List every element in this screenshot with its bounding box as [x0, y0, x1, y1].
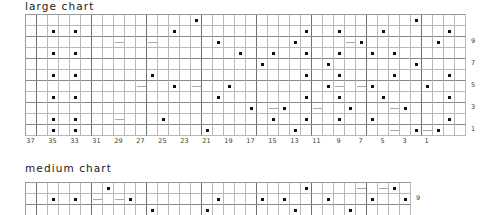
chart-cell[interactable]: [411, 15, 422, 26]
chart-cell[interactable]: [301, 205, 312, 215]
chart-cell[interactable]: [92, 70, 103, 81]
chart-cell[interactable]: [345, 194, 356, 205]
chart-cell[interactable]: [213, 48, 224, 59]
chart-cell[interactable]: [202, 81, 213, 92]
chart-cell[interactable]: [224, 205, 235, 215]
chart-cell[interactable]: [147, 70, 158, 81]
chart-cell[interactable]: [400, 103, 411, 114]
chart-cell[interactable]: [257, 114, 268, 125]
chart-cell[interactable]: [345, 15, 356, 26]
chart-cell[interactable]: [323, 48, 334, 59]
chart-cell[interactable]: [180, 114, 191, 125]
chart-cell[interactable]: [389, 205, 400, 215]
chart-cell[interactable]: [411, 103, 422, 114]
chart-cell[interactable]: [191, 26, 202, 37]
chart-cell[interactable]: [444, 26, 455, 37]
chart-cell[interactable]: [191, 92, 202, 103]
chart-cell[interactable]: [213, 125, 224, 136]
chart-cell[interactable]: [202, 59, 213, 70]
chart-cell[interactable]: [345, 37, 356, 48]
chart-cell[interactable]: [191, 15, 202, 26]
chart-cell[interactable]: [70, 194, 81, 205]
chart-cell[interactable]: [257, 92, 268, 103]
chart-cell[interactable]: [455, 92, 466, 103]
chart-cell[interactable]: [301, 70, 312, 81]
chart-cell[interactable]: [158, 48, 169, 59]
chart-cell[interactable]: [268, 125, 279, 136]
chart-cell[interactable]: [246, 92, 257, 103]
chart-cell[interactable]: [136, 194, 147, 205]
chart-cell[interactable]: [48, 70, 59, 81]
chart-cell[interactable]: [345, 103, 356, 114]
chart-cell[interactable]: [48, 92, 59, 103]
chart-cell[interactable]: [400, 125, 411, 136]
chart-cell[interactable]: [301, 48, 312, 59]
chart-cell[interactable]: [323, 37, 334, 48]
chart-cell[interactable]: [444, 59, 455, 70]
chart-cell[interactable]: [37, 183, 48, 194]
chart-cell[interactable]: [81, 15, 92, 26]
chart-cell[interactable]: [257, 103, 268, 114]
chart-cell[interactable]: [191, 114, 202, 125]
chart-cell[interactable]: [169, 48, 180, 59]
chart-cell[interactable]: [180, 205, 191, 215]
chart-cell[interactable]: [345, 205, 356, 215]
chart-cell[interactable]: [323, 183, 334, 194]
chart-cell[interactable]: [180, 125, 191, 136]
chart-cell[interactable]: [59, 103, 70, 114]
chart-cell[interactable]: [312, 81, 323, 92]
chart-cell[interactable]: [48, 205, 59, 215]
chart-cell[interactable]: [48, 125, 59, 136]
chart-cell[interactable]: [169, 205, 180, 215]
chart-cell[interactable]: [279, 194, 290, 205]
chart-cell[interactable]: [422, 15, 433, 26]
chart-cell[interactable]: [268, 70, 279, 81]
chart-cell[interactable]: [323, 103, 334, 114]
chart-cell[interactable]: [334, 194, 345, 205]
chart-cell[interactable]: [378, 59, 389, 70]
chart-cell[interactable]: [114, 81, 125, 92]
chart-cell[interactable]: [26, 125, 37, 136]
chart-cell[interactable]: [323, 70, 334, 81]
chart-cell[interactable]: [444, 103, 455, 114]
chart-cell[interactable]: [26, 37, 37, 48]
chart-cell[interactable]: [59, 70, 70, 81]
chart-cell[interactable]: [257, 70, 268, 81]
chart-cell[interactable]: [224, 70, 235, 81]
chart-cell[interactable]: [70, 37, 81, 48]
chart-cell[interactable]: [268, 92, 279, 103]
chart-cell[interactable]: [114, 205, 125, 215]
chart-cell[interactable]: [433, 48, 444, 59]
chart-cell[interactable]: [26, 92, 37, 103]
chart-cell[interactable]: [103, 183, 114, 194]
chart-cell[interactable]: [290, 103, 301, 114]
chart-cell[interactable]: [411, 114, 422, 125]
chart-cell[interactable]: [70, 59, 81, 70]
chart-cell[interactable]: [147, 205, 158, 215]
chart-cell[interactable]: [180, 59, 191, 70]
chart-cell[interactable]: [37, 92, 48, 103]
chart-cell[interactable]: [191, 194, 202, 205]
chart-cell[interactable]: [356, 26, 367, 37]
chart-cell[interactable]: [433, 15, 444, 26]
chart-cell[interactable]: [422, 125, 433, 136]
chart-cell[interactable]: [433, 70, 444, 81]
chart-cell[interactable]: [323, 114, 334, 125]
chart-cell[interactable]: [312, 103, 323, 114]
chart-cell[interactable]: [59, 92, 70, 103]
chart-cell[interactable]: [114, 125, 125, 136]
chart-cell[interactable]: [191, 48, 202, 59]
chart-cell[interactable]: [180, 92, 191, 103]
chart-cell[interactable]: [301, 26, 312, 37]
chart-cell[interactable]: [224, 81, 235, 92]
chart-cell[interactable]: [26, 59, 37, 70]
chart-cell[interactable]: [125, 37, 136, 48]
medium-chart-grid[interactable]: [25, 182, 411, 215]
chart-cell[interactable]: [191, 70, 202, 81]
chart-cell[interactable]: [345, 59, 356, 70]
chart-cell[interactable]: [125, 103, 136, 114]
chart-cell[interactable]: [345, 81, 356, 92]
chart-cell[interactable]: [279, 70, 290, 81]
chart-cell[interactable]: [389, 103, 400, 114]
chart-cell[interactable]: [367, 205, 378, 215]
